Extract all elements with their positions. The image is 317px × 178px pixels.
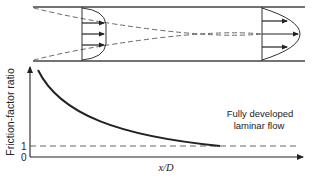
friction-graph: 1 0 Friction-factor ratio x/D Fully deve…	[4, 67, 303, 173]
y-axis-label: Friction-factor ratio	[4, 68, 16, 156]
entrance-flow-diagram: 1 0 Friction-factor ratio x/D Fully deve…	[0, 0, 317, 178]
y-tick-1: 1	[21, 141, 27, 152]
x-axis-label: x/D	[157, 162, 174, 173]
inlet-velocity-profile	[82, 7, 106, 61]
outlet-velocity-profile	[262, 7, 300, 61]
pipe	[33, 7, 305, 61]
boundary-layer-top	[34, 8, 262, 35]
friction-ratio-curve	[38, 70, 220, 146]
annotation-line-2: laminar flow	[234, 120, 285, 131]
boundary-layer-bottom	[34, 33, 262, 60]
y-tick-0: 0	[21, 152, 27, 163]
annotation-line-1: Fully developed	[227, 108, 294, 119]
